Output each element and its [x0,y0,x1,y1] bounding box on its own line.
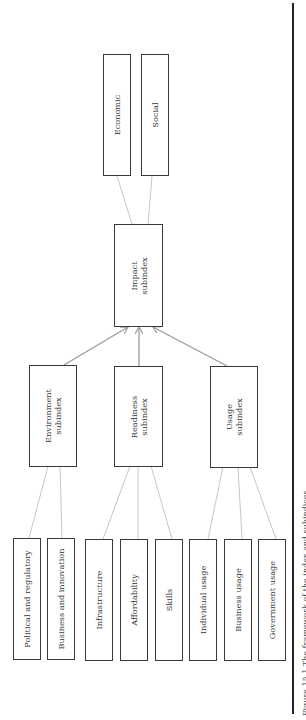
node-skills: Skills [155,539,183,661]
node-impact-subindex: Impact subindex [114,224,163,327]
page-rule [292,3,294,714]
node-label: Readiness subindex [129,395,149,437]
node-label: Government usage [267,561,277,639]
edge-government-usage [250,467,276,539]
figure-caption: Figure 15.1 The framework of the index a… [301,490,306,716]
node-economic: Economic [103,54,131,176]
node-label: Environment subindex [43,389,63,443]
node-label: Social [150,102,160,127]
node-label: Business usage [233,568,243,632]
edge-impact-economic [117,176,132,224]
node-label: Political and regulatory [22,550,32,647]
node-label: Skills [164,589,174,612]
edge-infrastructure-readiness [103,466,130,539]
edge-skills-readiness [151,466,172,539]
node-label: Economic [112,95,122,136]
node-social: Social [141,54,169,176]
node-government-usage: Government usage [258,539,286,661]
node-business-and-innovation: Business and innovation [47,538,75,660]
node-business-usage: Business usage [224,539,252,661]
node-label: Individual usage [198,566,208,635]
arrow-usage-impact [153,327,227,366]
edge-impact-social [148,176,152,224]
node-environment-subindex: Environment subindex [29,365,77,467]
node-label: Business and innovation [56,549,66,650]
framework-diagram: Economic Social Impact subindex Environm… [0,0,306,720]
edge-political-environment [29,466,48,538]
edge-business-usage [238,467,242,539]
node-affordability: Affordability [120,539,148,661]
node-label: Infrastructure [94,571,104,630]
arrow-environment-impact [64,327,128,365]
node-infrastructure: Infrastructure [85,539,113,661]
node-readiness-subindex: Readiness subindex [114,366,163,467]
node-label: Usage subindex [224,398,244,435]
node-usage-subindex: Usage subindex [210,366,258,468]
node-label: Impact subindex [129,257,149,294]
edge-individual-usage [208,467,223,539]
node-political-and-regulatory: Political and regulatory [13,538,41,660]
node-individual-usage: Individual usage [189,539,217,661]
edge-business-innovation-environment [60,466,62,538]
node-label: Affordability [129,574,139,626]
